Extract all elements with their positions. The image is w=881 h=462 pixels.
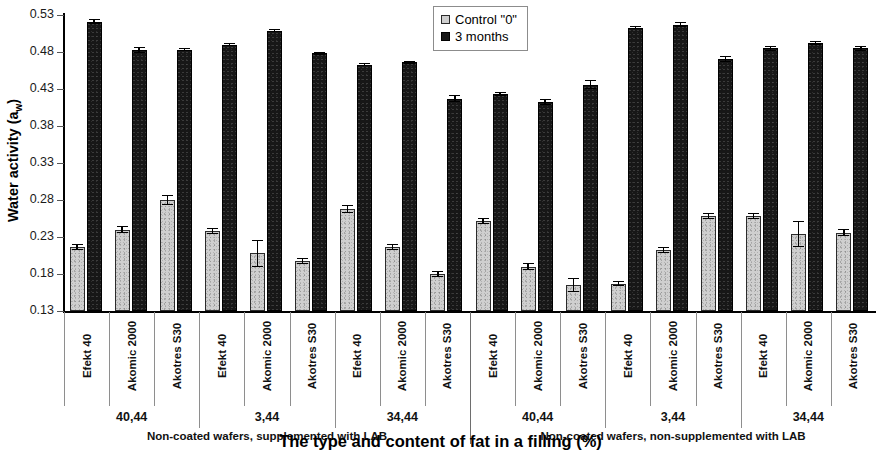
error-bar-stem — [319, 53, 320, 54]
error-bar-stem — [635, 27, 636, 28]
fat-group-separator — [741, 312, 742, 428]
legend-swatch-control-icon — [441, 15, 450, 24]
error-bar — [703, 213, 714, 219]
category-label-wrapper: Akotres S30 — [290, 316, 335, 406]
category-label-wrapper: Efekt 40 — [605, 316, 650, 406]
y-axis-tick-mark — [57, 15, 64, 16]
category-label: Akotres S30 — [171, 323, 183, 389]
bar-3-months — [447, 99, 462, 311]
category-label-wrapper: Akomic 2000 — [786, 316, 831, 406]
error-bar-stem — [618, 282, 619, 284]
x-axis-category: Akomic 2000 — [380, 312, 425, 406]
y-axis-tick-label: 0.28 — [30, 192, 54, 206]
category-label-wrapper: Efekt 40 — [470, 316, 515, 406]
category-label-wrapper: Efekt 40 — [199, 316, 244, 406]
error-bar — [495, 92, 506, 96]
y-axis-tick-label: 0.38 — [30, 118, 54, 132]
bar-3-months — [222, 45, 237, 311]
bar-3-months — [763, 48, 778, 311]
x-axis-category: Efekt 40 — [64, 312, 109, 406]
x-axis-category: Efekt 40 — [741, 312, 786, 406]
category-label-wrapper: Akomic 2000 — [650, 316, 695, 406]
error-bar-stem — [76, 245, 77, 249]
category-label: Akomic 2000 — [802, 321, 814, 391]
x-axis-category: Efekt 40 — [605, 312, 650, 406]
bar-3-months — [357, 65, 372, 311]
category-label-wrapper: Akomic 2000 — [515, 316, 560, 406]
error-bar — [404, 61, 415, 64]
x-axis-category: Akotres S30 — [696, 312, 741, 406]
bar-control — [430, 274, 445, 311]
fat-content-label: 34,44 — [387, 410, 418, 424]
error-bar-stem — [798, 222, 799, 247]
bar-3-months — [312, 53, 327, 311]
error-bar — [720, 56, 731, 62]
error-bar — [117, 226, 128, 233]
category-label: Akotres S30 — [306, 323, 318, 389]
fat-content-group: 3,44 — [199, 406, 334, 428]
error-bar — [810, 41, 821, 45]
y-axis-tick-mark — [57, 311, 64, 312]
y-axis-tick-mark — [57, 237, 64, 238]
bar-3-months — [628, 28, 643, 311]
error-bar-stem — [229, 44, 230, 45]
x-axis-category: Efekt 40 — [470, 312, 515, 406]
error-bar — [658, 247, 669, 253]
category-label-wrapper: Akomic 2000 — [380, 316, 425, 406]
bar-control — [746, 216, 761, 311]
x-axis-category: Akomic 2000 — [515, 312, 560, 406]
error-bar-stem — [93, 20, 94, 22]
legend-label-control: Control "0" — [455, 12, 517, 27]
error-bar-stem — [138, 48, 139, 52]
bar-control — [611, 284, 626, 311]
x-axis-category: Akotres S30 — [154, 312, 199, 406]
bar-control — [656, 250, 671, 311]
category-label-wrapper: Akotres S30 — [696, 316, 741, 406]
x-axis-category: Akotres S30 — [831, 312, 876, 406]
bar-control — [295, 261, 310, 311]
bar-3-months — [402, 62, 417, 311]
error-bar-stem — [302, 259, 303, 263]
category-label: Efekt 40 — [487, 334, 499, 378]
error-bar-stem — [347, 206, 348, 211]
error-bar-stem — [770, 47, 771, 49]
bar-control — [476, 221, 491, 311]
error-bar — [765, 46, 776, 50]
category-label: Efekt 40 — [81, 334, 93, 378]
bar-control — [521, 267, 536, 311]
fat-content-label: 3,44 — [255, 410, 279, 424]
category-label: Efekt 40 — [216, 334, 228, 378]
bar-control — [70, 247, 85, 311]
error-bar-stem — [212, 229, 213, 233]
bar-3-months — [718, 59, 733, 311]
error-bar-stem — [708, 214, 709, 218]
error-bar — [134, 47, 145, 53]
category-label: Akotres S30 — [441, 323, 453, 389]
x-axis-category: Akomic 2000 — [244, 312, 289, 406]
y-axis-tick-mark — [57, 52, 64, 53]
bar-control — [385, 247, 400, 311]
fat-content-group: 40,44 — [470, 406, 605, 428]
error-bar — [449, 95, 460, 102]
y-axis-tick-mark — [57, 126, 64, 127]
error-bar-stem — [725, 57, 726, 61]
fat-content-label: 40,44 — [522, 410, 553, 424]
y-axis-tick-label: 0.23 — [30, 229, 54, 243]
category-label-wrapper: Akotres S30 — [831, 316, 876, 406]
error-bar — [585, 80, 596, 89]
x-axis-category: Akomic 2000 — [650, 312, 695, 406]
x-axis-category: Efekt 40 — [199, 312, 244, 406]
error-bar-stem — [753, 214, 754, 218]
bar-3-months — [673, 25, 688, 311]
fat-content-group: 40,44 — [64, 406, 199, 428]
chart-legend: Control "0" 3 months — [433, 6, 528, 51]
bar-3-months — [808, 43, 823, 311]
bar-3-months — [538, 102, 553, 311]
error-bar-stem — [121, 227, 122, 232]
category-label: Akomic 2000 — [261, 321, 273, 391]
y-axis-tick-label: 0.33 — [30, 155, 54, 169]
error-bar-stem — [274, 30, 275, 31]
fat-group-separator — [335, 312, 336, 428]
category-label-wrapper: Efekt 40 — [64, 316, 109, 406]
error-bar — [269, 29, 280, 32]
